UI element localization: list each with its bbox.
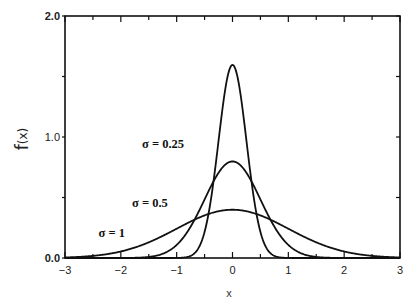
x-tick-label: −3	[59, 264, 72, 276]
x-tick-label: 2	[341, 264, 347, 276]
y-tick-label: 2.0	[45, 10, 60, 22]
svg-text:f(x): f(x)	[12, 128, 32, 150]
sigma-annotation: σ = 0.5	[132, 196, 168, 210]
y-tick-label: 0.0	[45, 252, 60, 264]
x-tick-label: 1	[285, 264, 291, 276]
x-tick-label: 3	[397, 264, 403, 276]
curve-annotations: σ = 0.25σ = 0.5σ = 1	[99, 137, 185, 241]
x-tick-label: 0	[229, 264, 235, 276]
sigma-annotation: σ = 1	[99, 226, 125, 240]
gaussian-chart: −3−2−101230.01.02.0 σ = 0.25σ = 0.5σ = 1…	[0, 0, 414, 306]
x-axis-label: x	[226, 287, 232, 299]
y-axis-label: f(x)	[12, 128, 32, 150]
y-tick-label: 1.0	[45, 131, 60, 143]
sigma-annotation: σ = 0.25	[142, 137, 184, 151]
x-tick-label: −2	[115, 264, 128, 276]
axis-ticks	[62, 16, 400, 258]
plot-frame	[65, 16, 400, 258]
x-tick-label: −1	[170, 264, 183, 276]
